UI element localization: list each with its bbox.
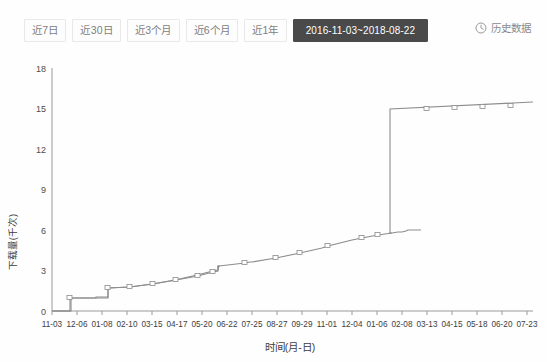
x-axis-ticklabels: 11-03 12-06 01-08 02-10 03-15 04-17 05-2… xyxy=(42,320,538,329)
marker xyxy=(210,270,215,274)
x-tick-3: 02-10 xyxy=(117,320,138,329)
range-button-custom-date[interactable]: 2016-11-03~2018-08-22 xyxy=(293,19,429,42)
download-line-chart: 下载量(千次) 18 15 12 9 6 3 0 xyxy=(0,52,547,362)
x-tick-8: 07-25 xyxy=(242,320,263,329)
x-tick-19: 07-23 xyxy=(517,320,538,329)
time-range-button-group: 近7日 近30日 近3个月 近6个月 近1年 2016-11-03~2018-0… xyxy=(24,19,434,42)
x-tick-4: 03-15 xyxy=(142,320,163,329)
marker xyxy=(242,261,247,265)
y-tick-0: 0 xyxy=(41,307,46,317)
marker xyxy=(127,285,132,289)
y-axis-title: 下载量(千次) xyxy=(7,214,18,270)
x-tick-6: 05-20 xyxy=(192,320,213,329)
download-stats-panel: 近7日 近30日 近3个月 近6个月 近1年 2016-11-03~2018-0… xyxy=(0,0,547,362)
x-axis-title: 时间(月-日) xyxy=(265,341,316,353)
history-data-link[interactable]: 历史数据 xyxy=(475,20,531,35)
marker xyxy=(273,256,278,260)
range-button-3m[interactable]: 近3个月 xyxy=(127,19,180,42)
y-tick-9: 9 xyxy=(41,185,46,195)
marker xyxy=(150,282,155,286)
marker xyxy=(173,278,178,282)
chart-toolbar: 近7日 近30日 近3个月 近6个月 近1年 2016-11-03~2018-0… xyxy=(0,0,547,52)
x-tick-16: 04-15 xyxy=(442,320,463,329)
y-tick-3: 3 xyxy=(41,266,46,276)
marker xyxy=(424,107,429,111)
y-axis-ticks: 18 15 12 9 6 3 0 xyxy=(36,64,46,317)
y-tick-6: 6 xyxy=(41,226,46,236)
x-tick-17: 05-18 xyxy=(467,320,488,329)
marker xyxy=(325,244,330,248)
range-button-1y[interactable]: 近1年 xyxy=(244,19,286,42)
x-tick-10: 09-29 xyxy=(292,320,313,329)
x-tick-13: 01-06 xyxy=(367,320,388,329)
x-tick-9: 08-27 xyxy=(267,320,288,329)
range-button-7d[interactable]: 近7日 xyxy=(24,19,66,42)
marker xyxy=(195,274,200,278)
x-tick-2: 01-08 xyxy=(92,320,113,329)
clock-icon xyxy=(475,22,487,34)
marker xyxy=(508,104,513,108)
download-line-tail xyxy=(389,102,533,233)
x-tick-5: 04-17 xyxy=(167,320,188,329)
x-tick-11: 11-01 xyxy=(317,320,338,329)
chart-canvas: 下载量(千次) 18 15 12 9 6 3 0 xyxy=(0,52,547,362)
y-tick-18: 18 xyxy=(36,64,46,74)
x-tick-7: 06-22 xyxy=(217,320,238,329)
x-tick-1: 12-06 xyxy=(67,320,88,329)
y-tick-12: 12 xyxy=(36,145,46,155)
download-line-path xyxy=(52,230,421,311)
marker xyxy=(67,296,72,300)
y-tick-15: 15 xyxy=(36,104,46,114)
marker xyxy=(480,105,485,109)
data-point-markers xyxy=(67,104,513,300)
range-button-6m[interactable]: 近6个月 xyxy=(186,19,239,42)
x-tick-14: 02-08 xyxy=(392,320,413,329)
x-tick-15: 03-13 xyxy=(417,320,438,329)
marker xyxy=(297,251,302,255)
marker xyxy=(375,233,380,237)
x-tick-0: 11-03 xyxy=(42,320,63,329)
marker xyxy=(452,106,457,110)
range-button-30d[interactable]: 近30日 xyxy=(72,19,120,42)
download-cumulative-line xyxy=(52,266,219,311)
marker xyxy=(359,236,364,240)
history-data-label: 历史数据 xyxy=(491,20,531,35)
x-tick-12: 12-04 xyxy=(342,320,363,329)
x-tick-18: 06-20 xyxy=(492,320,513,329)
x-axis-tickmarks xyxy=(52,311,527,315)
marker xyxy=(105,286,110,290)
